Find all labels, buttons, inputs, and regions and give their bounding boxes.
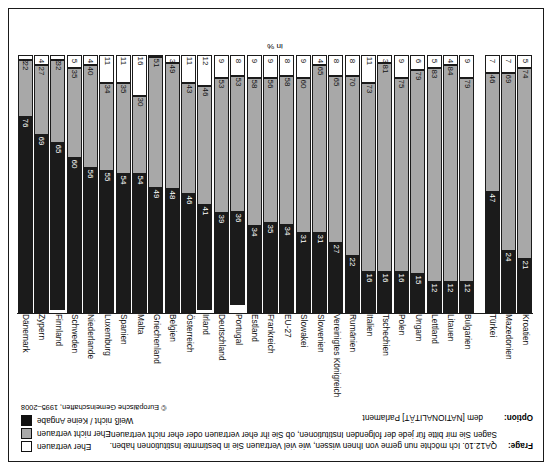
category-label-1: Mazedonien [501, 313, 516, 425]
category-labels: KroatienMazedonienTürkeiBulgarienLitauen… [17, 313, 533, 425]
bar-value-label: 12 [430, 284, 438, 293]
category-label-0: Kroatien [517, 313, 532, 425]
bar-segment-vlab-gray: 30 [132, 96, 147, 173]
bar-segment-vlab-black: 69 [34, 135, 49, 313]
bar-value-label: 69 [37, 137, 45, 146]
bar-value-label: 9 [397, 59, 405, 63]
bar-segment-vlab-black: 36 [230, 212, 245, 305]
bar-column-21: 464311 [181, 55, 196, 313]
bar-value-label: 2 [21, 59, 29, 63]
bar-value-label: 47 [488, 193, 496, 202]
bar-column-19: 39539 [214, 55, 229, 313]
bar-value-label: 60 [70, 160, 78, 169]
category-label-7: Ungarn [410, 313, 425, 425]
bar-value-label: 9 [299, 59, 307, 63]
bar-value-label: 31 [299, 235, 307, 244]
bar-value-label: 16 [365, 273, 373, 282]
bar-segment-vlab-black: 47 [485, 192, 500, 313]
bar-value-label: 5 [70, 59, 78, 63]
category-label-text: Spanien [119, 314, 128, 345]
bar-segment-vlab-gray: 75 [394, 78, 409, 272]
bar-value-label: 46 [488, 75, 496, 84]
category-label-text: Portugal [233, 314, 242, 345]
bar-value-label: 51 [152, 59, 160, 68]
category-label-text: Dänemark [21, 314, 30, 353]
bar-value-label: 15 [414, 276, 422, 285]
bar-value-label: 69 [504, 75, 512, 84]
bar-column-5: 12844 [443, 55, 458, 313]
category-label-21: Österreich [181, 313, 196, 425]
category-label-text: Ungarn [413, 314, 422, 341]
category-label-text: Vereinigtes Königreich [331, 314, 340, 397]
bar-segment-vlab-gray: 51 [148, 57, 163, 188]
category-label-text: Österreich [184, 314, 193, 353]
bar-value-label: 12 [463, 284, 471, 293]
bar-column-7: 15796 [410, 55, 425, 313]
bar-value-label: 48 [168, 191, 176, 200]
bar-column-10: 167311 [361, 55, 376, 313]
bar-segment-vlab-black: 65 [50, 143, 65, 311]
bar-value-label: 8 [234, 59, 242, 63]
category-label-11: Rumänien [345, 313, 360, 425]
category-label-text: Estland [250, 314, 259, 342]
bar-segment-vlab-gray: 35 [67, 68, 82, 158]
bar-segment-vlab-black: 21 [517, 259, 532, 313]
legend-label-eher-nicht-vertrauen: Eher nicht vertrauen [37, 429, 111, 438]
bar-segment-vlab-black: 16 [361, 272, 376, 313]
bar-value-label: 5 [430, 59, 438, 63]
bar-column-1: 24697 [501, 55, 516, 313]
bar-value-label: 8 [348, 59, 356, 63]
bar-segment-vlab-white: 9 [263, 55, 278, 78]
bar-segment-vlab-gray: 69 [501, 73, 516, 251]
bar-value-label: 16 [397, 273, 405, 282]
bar-segment-vlab-white: 9 [296, 55, 311, 78]
category-label-2: Türkei [485, 313, 500, 425]
category-label-28: Schweden [67, 313, 82, 425]
bar-segment-vlab-black: 54 [116, 174, 131, 313]
bar-segment-vlab-white: 4 [83, 55, 98, 65]
bar-value-label: 40 [86, 67, 94, 76]
bar-column-6: 12835 [427, 55, 442, 313]
bar-value-label: 83 [430, 69, 438, 78]
bar-segment-vlab-gray: 40 [83, 65, 98, 168]
category-label-4: Bulgarien [459, 313, 474, 425]
bar-column-8: 16759 [394, 55, 409, 313]
bar-segment-vlab-white: 4 [34, 55, 49, 65]
question-label: Frage: [497, 440, 533, 451]
bar-segment-vlab-gray: 81 [377, 63, 392, 272]
bar-value-label: 58 [283, 77, 291, 86]
legend-item-eher-nicht-vertrauen: Eher nicht vertrauen [21, 427, 201, 440]
bar-value-label: 54 [136, 175, 144, 184]
bar-column-22: 48493 [165, 55, 180, 313]
category-label-22: Belgien [165, 313, 180, 425]
category-label-20: Irland [198, 313, 213, 425]
category-label-text: Schweden [70, 314, 79, 353]
bar-column-14: 31609 [296, 55, 311, 313]
bar-value-label: 34 [103, 85, 111, 94]
bar-segment-vlab-white: 8 [328, 55, 343, 76]
bar-value-label: 27 [332, 245, 340, 254]
bar-column-13: 31654 [312, 55, 327, 313]
bar-segment-vlab-white: 9 [247, 55, 262, 78]
bar-segment-vlab-black: 46 [181, 194, 196, 313]
bar-value-label: 11 [365, 57, 373, 65]
bar-value-label: 8 [283, 59, 291, 63]
bar-segment-vlab-black: 41 [198, 205, 213, 311]
category-label-text: Polen [397, 314, 406, 335]
bar-value-label: 54 [119, 175, 127, 184]
category-label-text: Bulgarien [462, 314, 471, 349]
bar-segment-vlab-gray: 84 [443, 65, 458, 282]
bar-segment-vlab-gray: 43 [181, 83, 196, 194]
bar-segment-vlab-gray: 56 [263, 78, 278, 222]
bar-column-16: 35569 [263, 55, 278, 313]
category-label-text: EU-27 [282, 314, 291, 338]
bar-segment-vlab-black: 34 [279, 225, 294, 313]
bar-segment-vlab-white: 11 [361, 55, 376, 83]
bar-segment-vlab-white: 8 [230, 55, 245, 76]
bar-value-label: 21 [521, 260, 529, 269]
bar-column-27: 56404 [83, 55, 98, 313]
bar-column-24: 543016 [132, 55, 147, 313]
bar-segment-vlab-white: 11 [116, 55, 131, 83]
category-label-12: Vereinigtes Königreich [328, 313, 343, 425]
bar-column-31: 76222 [18, 55, 33, 313]
